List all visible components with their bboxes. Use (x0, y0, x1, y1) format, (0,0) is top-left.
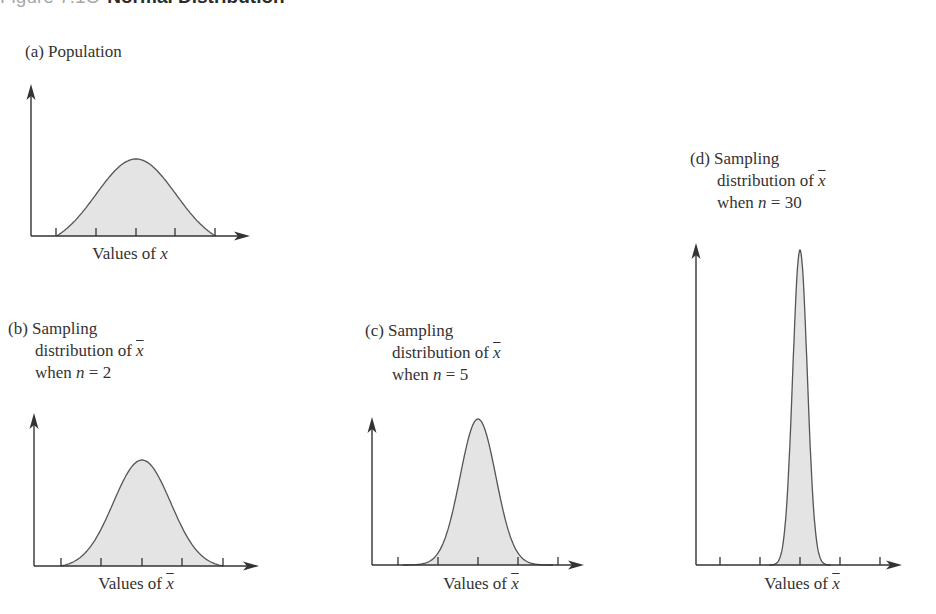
density-fill (61, 460, 223, 566)
density-fill (57, 159, 216, 236)
panel-a-plot (27, 84, 251, 241)
plots-canvas (0, 0, 936, 614)
density-fill (403, 419, 553, 565)
panel-d-plot (692, 243, 903, 570)
panel-b-plot (30, 413, 260, 571)
density-fill (769, 250, 830, 565)
panel-c-plot (368, 417, 585, 570)
